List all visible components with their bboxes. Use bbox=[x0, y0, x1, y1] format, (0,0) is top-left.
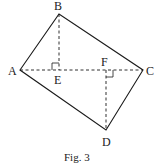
label-e: E bbox=[54, 73, 61, 87]
label-d: D bbox=[102, 135, 111, 149]
quadrilateral-abcd bbox=[20, 14, 143, 130]
figure-caption: Fig. 3 bbox=[64, 151, 90, 163]
right-angle-marker-f bbox=[106, 70, 113, 77]
label-b: B bbox=[54, 0, 62, 13]
label-f: F bbox=[101, 55, 108, 69]
label-c: C bbox=[146, 64, 154, 78]
right-angle-marker-e bbox=[52, 63, 59, 70]
quadrilateral-diagram: A B C D E F Fig. 3 bbox=[0, 0, 164, 164]
label-a: A bbox=[8, 64, 17, 78]
